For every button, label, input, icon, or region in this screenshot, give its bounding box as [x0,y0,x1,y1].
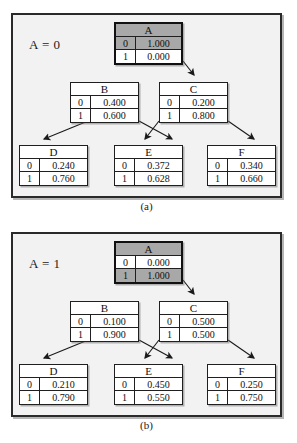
cpt-table-b-E: E 0 0.450 1 0.550 [114,364,183,405]
cpt-row: 1 0.660 [208,172,275,185]
edge-a-to-c [183,280,194,294]
cpt-header-a-B: B [71,83,138,96]
cpt-key: 0 [160,96,180,108]
edge-c-to-f [228,121,254,139]
cpt-row: 1 0.500 [160,328,227,341]
cpt-value: 0.750 [228,391,275,404]
cpt-row: 1 0.900 [71,328,138,341]
cpt-table-b-D: D 0 0.210 1 0.790 [19,364,88,405]
cpt-value: 0.000 [136,256,181,268]
cpt-row: 1 0.750 [208,391,275,404]
cpt-header-a-D: D [20,146,87,159]
cpt-table-b-A: A 0 0.000 1 1.000 [114,241,183,284]
cpt-table-a-C: C 0 0.200 1 0.800 [159,82,228,123]
cpt-row: 0 0.200 [160,96,227,109]
edge-c-to-e [145,121,159,139]
cpt-key: 1 [160,328,180,341]
cpt-key: 0 [116,256,136,268]
cpt-value: 0.500 [180,315,227,327]
cpt-header-b-C: C [160,302,227,315]
cpt-row: 1 0.000 [116,50,181,63]
cpt-value: 1.000 [136,37,181,49]
cpt-key: 1 [115,391,135,404]
cpt-row: 0 1.000 [116,37,181,50]
cpt-row: 1 0.600 [71,109,138,122]
cpt-key: 1 [116,269,136,282]
cpt-value: 0.900 [91,328,138,341]
cpt-value: 0.250 [228,378,275,390]
cpt-header-b-E: E [115,365,182,378]
cpt-value: 0.340 [228,159,275,171]
cpt-value: 1.000 [136,269,181,282]
cpt-key: 1 [115,172,135,185]
cpt-value: 0.500 [180,328,227,341]
edge-b-to-e [139,340,172,358]
cpt-table-a-B: B 0 0.400 1 0.600 [70,82,139,123]
panel-a-label: A = 0 [29,37,61,53]
cpt-key: 1 [116,50,136,63]
cpt-table-a-E: E 0 0.372 1 0.628 [114,145,183,186]
cpt-header-b-D: D [20,365,87,378]
cpt-value: 0.628 [135,172,182,185]
cpt-table-a-A: A 0 1.000 1 0.000 [114,22,183,65]
cpt-key: 1 [20,172,40,185]
cpt-value: 0.240 [40,159,87,171]
cpt-header-b-A: A [116,243,181,256]
cpt-key: 0 [208,378,228,390]
cpt-row: 0 0.500 [160,315,227,328]
edge-b-to-d [44,340,88,358]
cpt-key: 0 [115,378,135,390]
edge-b-to-d [44,121,88,139]
cpt-value: 0.550 [135,391,182,404]
cpt-value: 0.600 [91,109,138,122]
cpt-row: 1 0.760 [20,172,87,185]
cpt-key: 0 [20,159,40,171]
cpt-header-a-C: C [160,83,227,96]
cpt-row: 0 0.450 [115,378,182,391]
cpt-key: 0 [208,159,228,171]
cpt-row: 0 0.340 [208,159,275,172]
cpt-row: 1 0.550 [115,391,182,404]
cpt-key: 1 [208,172,228,185]
cpt-header-b-B: B [71,302,138,315]
cpt-header-b-F: F [208,365,275,378]
cpt-key: 0 [116,37,136,49]
caption-a: (a) [11,200,282,212]
cpt-table-a-F: F 0 0.340 1 0.660 [207,145,276,186]
panel-b: A = 1 A 0 0.000 1 1.000 B 0 0.100 1 0.90… [11,232,282,417]
edge-a-to-c [183,61,194,75]
cpt-table-b-C: C 0 0.500 1 0.500 [159,301,228,342]
cpt-value: 0.400 [91,96,138,108]
cpt-value: 0.760 [40,172,87,185]
caption-b: (b) [11,419,282,431]
cpt-key: 1 [71,109,91,122]
cpt-row: 1 1.000 [116,269,181,282]
cpt-value: 0.210 [40,378,87,390]
cpt-row: 1 0.790 [20,391,87,404]
cpt-key: 1 [71,328,91,341]
cpt-value: 0.000 [136,50,181,63]
cpt-key: 1 [20,391,40,404]
cpt-row: 0 0.372 [115,159,182,172]
cpt-key: 1 [208,391,228,404]
cpt-value: 0.800 [180,109,227,122]
cpt-row: 0 0.100 [71,315,138,328]
cpt-table-b-B: B 0 0.100 1 0.900 [70,301,139,342]
cpt-key: 1 [160,109,180,122]
cpt-row: 1 0.628 [115,172,182,185]
panel-b-label: A = 1 [29,256,61,272]
cpt-value: 0.660 [228,172,275,185]
cpt-row: 0 0.400 [71,96,138,109]
cpt-key: 0 [71,315,91,327]
cpt-key: 0 [71,96,91,108]
cpt-row: 0 0.000 [116,256,181,269]
cpt-header-a-A: A [116,24,181,37]
cpt-key: 0 [160,315,180,327]
cpt-table-b-F: F 0 0.250 1 0.750 [207,364,276,405]
cpt-value: 0.790 [40,391,87,404]
cpt-table-a-D: D 0 0.240 1 0.760 [19,145,88,186]
cpt-value: 0.450 [135,378,182,390]
cpt-value: 0.100 [91,315,138,327]
cpt-key: 0 [115,159,135,171]
edge-c-to-f [228,340,254,358]
